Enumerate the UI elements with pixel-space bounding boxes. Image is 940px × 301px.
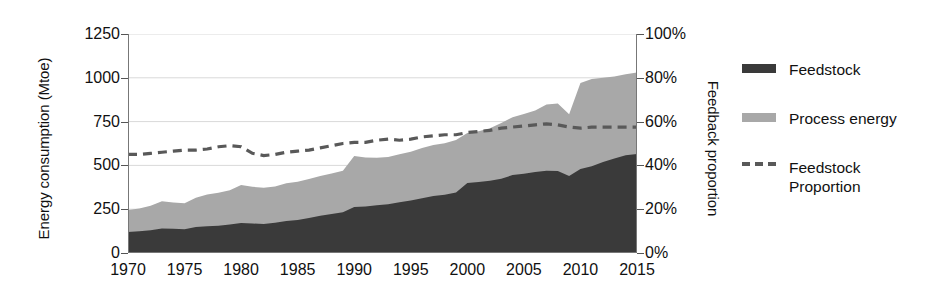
legend-item-label: Feedstock Proportion xyxy=(789,158,861,196)
y-axis-title-left: Energy consumption (Mtoe) xyxy=(35,39,52,259)
y-tick-label-left: 0 xyxy=(56,245,120,261)
y-tick-mark-left xyxy=(121,122,128,123)
y-tick-label-right: 100% xyxy=(645,26,709,42)
x-tick-label: 1975 xyxy=(155,262,215,278)
y-tick-label-left: 1000 xyxy=(56,70,120,86)
y-tick-label-right: 80% xyxy=(645,70,709,86)
y-tick-mark-right xyxy=(637,209,644,210)
y-tick-label-right: 20% xyxy=(645,201,709,217)
x-tick-label: 1990 xyxy=(324,262,384,278)
legend-item-label: Feedstock xyxy=(789,60,861,79)
y-tick-mark-left xyxy=(121,34,128,35)
legend-item[interactable]: Feedstock Proportion xyxy=(742,158,932,196)
plot-svg xyxy=(128,34,637,253)
y-tick-label-right: 40% xyxy=(645,157,709,173)
y-tick-mark-left xyxy=(121,209,128,210)
chart-legend: FeedstockProcess energyFeedstock Proport… xyxy=(742,60,932,226)
legend-dashed-line-icon xyxy=(742,162,776,166)
x-axis-ticks: 1970197519801985199019952000200520102015 xyxy=(0,262,940,284)
y-tick-mark-right xyxy=(637,165,644,166)
y-axis-ticks-right: 100%80%60%40%20%0% xyxy=(645,0,709,301)
y-tick-mark-left xyxy=(121,78,128,79)
x-tick-label: 1980 xyxy=(211,262,271,278)
x-tick-label: 1985 xyxy=(268,262,328,278)
y-tick-label-left: 750 xyxy=(56,114,120,130)
y-tick-mark-right xyxy=(637,122,644,123)
y-axis-ticks-left: 125010007505002500 xyxy=(56,0,120,301)
plot-area xyxy=(128,34,637,253)
y-tick-label-left: 250 xyxy=(56,201,120,217)
y-tick-mark-left xyxy=(121,165,128,166)
y-tick-mark-right xyxy=(637,253,644,254)
y-tick-mark-right xyxy=(637,34,644,35)
legend-item[interactable]: Feedstock xyxy=(742,60,932,79)
x-tick-label: 1995 xyxy=(381,262,441,278)
x-tick-label: 1970 xyxy=(98,262,158,278)
y-tick-label-left: 1250 xyxy=(56,26,120,42)
y-tick-label-right: 60% xyxy=(645,114,709,130)
x-tick-label: 2000 xyxy=(437,262,497,278)
y-tick-mark-left xyxy=(121,253,128,254)
legend-item[interactable]: Process energy xyxy=(742,109,932,128)
x-tick-label: 2010 xyxy=(550,262,610,278)
y-tick-label-left: 500 xyxy=(56,157,120,173)
y-tick-label-right: 0% xyxy=(645,245,709,261)
legend-color-swatch-icon xyxy=(742,64,776,73)
y-tick-mark-right xyxy=(637,78,644,79)
chart-figure: Energy consumption (Mtoe) Feedback propo… xyxy=(0,0,940,301)
legend-item-label: Process energy xyxy=(789,109,897,128)
x-tick-label: 2005 xyxy=(494,262,554,278)
legend-color-swatch-icon xyxy=(742,113,776,122)
x-tick-label: 2015 xyxy=(607,262,667,278)
